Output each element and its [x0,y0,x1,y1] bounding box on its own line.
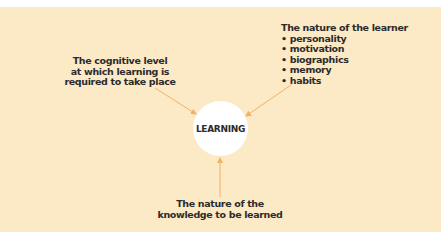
knowledge-line: knowledge to be learned [150,210,290,221]
cognitive-level-factor: The cognitive level at which learning is… [60,56,180,88]
knowledge-nature-factor: The nature of the knowledge to be learne… [150,199,290,220]
learning-label: LEARNING [196,124,245,134]
learner-attribute: habits [281,76,431,87]
learner-nature-factor: The nature of the learner personality mo… [281,23,431,87]
learner-title: The nature of the learner [281,23,431,34]
arrow-learner-to-learning [246,85,291,116]
learning-node: LEARNING [193,101,248,156]
cognitive-line: The cognitive level [60,56,180,67]
learner-attributes-list: personality motivation biographics memor… [281,34,431,87]
cognitive-line: required to take place [60,77,180,88]
knowledge-line: The nature of the [150,199,290,210]
arrow-cognitive-to-learning [155,88,196,114]
